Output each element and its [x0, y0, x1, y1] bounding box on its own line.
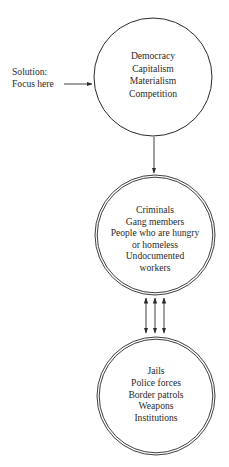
node-root-causes: Democracy Capitalism Materialism Competi… — [94, 18, 212, 136]
node2-line: People who are hungry — [111, 227, 200, 238]
node1-line: Materialism — [130, 75, 177, 86]
node1-line: Competition — [129, 88, 177, 99]
node2-line: Gang members — [126, 216, 185, 227]
double-arrows — [146, 298, 164, 333]
node2-line: Criminals — [136, 204, 174, 215]
node-affected-groups: Criminals Gang members People who are hu… — [95, 175, 215, 295]
node3-line: Jails — [147, 365, 164, 376]
node3-line: Institutions — [134, 412, 177, 423]
node2-line: Undocumented — [126, 250, 185, 261]
node3-line: Border patrols — [128, 389, 183, 400]
node2-line: workers — [140, 262, 171, 273]
diagram-canvas: Solution: Focus here Democracy Capitalis… — [0, 0, 229, 467]
annotation-line-1: Solution: — [12, 66, 47, 77]
node2-line: or homeless — [132, 239, 178, 250]
node1-line: Democracy — [131, 50, 175, 61]
node3-line: Police forces — [131, 377, 181, 388]
node1-line: Capitalism — [132, 63, 174, 74]
node-responses: Jails Police forces Border patrols Weapo… — [97, 337, 215, 455]
annotation-line-2: Focus here — [12, 78, 54, 89]
solution-annotation: Solution: Focus here — [12, 66, 92, 89]
node3-line: Weapons — [139, 400, 174, 411]
